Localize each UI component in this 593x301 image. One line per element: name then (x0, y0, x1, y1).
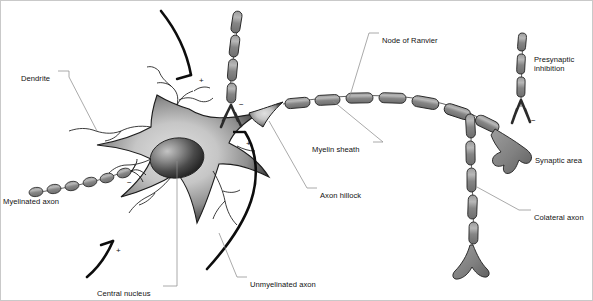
thick-top-dendrite (161, 11, 191, 79)
synaptic-terminal (491, 129, 532, 174)
main-axon (249, 93, 532, 174)
leader-colateral-axon (477, 187, 531, 210)
thick-bottom-dendrite (87, 241, 113, 277)
neuron-illustration (1, 1, 593, 301)
sign-minus-presynaptic: − (531, 117, 536, 125)
label-presynaptic-inhibition-line2: inhibition (534, 64, 574, 73)
label-dendrite: Dendrite (21, 74, 50, 83)
colateral-terminal (453, 245, 489, 279)
presynaptic-inhibition-fiber (512, 33, 530, 123)
sign-plus-top-dendrite: + (199, 77, 204, 85)
colateral-axon-branch (453, 114, 489, 279)
sign-minus-left-axon: − (127, 179, 132, 187)
leader-axon-hillock (269, 121, 317, 188)
label-myelinated-axon: Myelinated axon (3, 197, 59, 206)
diagonal-myelinated-axon (221, 11, 243, 127)
leader-node-of-ranvier (349, 33, 379, 99)
leader-myelin-sheath (333, 101, 383, 142)
label-presynaptic-inhibition-line1: Presynaptic (534, 55, 574, 64)
sign-plus-hillock: + (246, 140, 251, 148)
label-colateral-axon: Colateral axon (534, 213, 584, 222)
leader-lines (58, 33, 531, 286)
leader-dendrite (58, 71, 97, 131)
leader-unmyelinated-axon (219, 233, 247, 277)
soma (97, 95, 269, 223)
sign-plus-bottom-dendrite: + (116, 247, 121, 255)
label-axon-hillock: Axon hillock (320, 191, 361, 200)
label-central-nucleus: Central nucleus (97, 289, 151, 298)
label-myelin-sheath: Myelin sheath (312, 145, 360, 154)
label-unmyelinated-axon: Unmyelinated axon (250, 280, 316, 289)
label-presynaptic-inhibition: Presynaptic inhibition (534, 55, 574, 74)
label-synaptic-area: Synaptic area (535, 156, 582, 165)
label-node-of-ranvier: Node of Ranvier (382, 36, 438, 45)
sign-minus-diagonal-axon: − (239, 101, 244, 109)
neuron-diagram-figure: Dendrite Myelinated axon Central nucleus… (0, 0, 593, 301)
